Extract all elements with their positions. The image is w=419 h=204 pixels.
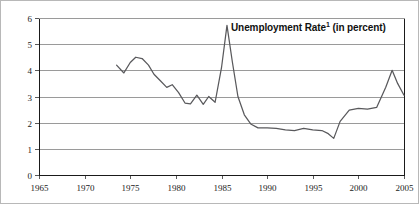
x-axis-tick-label: 1985 [214,183,233,193]
y-tick-marks [35,19,39,176]
x-axis-tick-label: 1980 [168,183,187,193]
x-axis-tick-label: 1975 [122,183,141,193]
y-axis-tick-label: 6 [28,14,33,24]
y-tick-labels: 0123456 [28,14,33,181]
y-axis-tick-label: 1 [28,145,33,155]
y-axis-tick-label: 3 [28,93,33,103]
y-axis-tick-label: 0 [28,171,33,181]
x-axis-tick-label: 2000 [350,183,369,193]
y-axis-tick-label: 2 [28,119,33,129]
title-footnote-marker: 1 [326,21,330,28]
chart-figure: 0123456 19651970197519801985199019952000… [0,0,419,204]
unemployment-rate-series-line [117,25,404,138]
x-axis-tick-label: 1995 [305,183,324,193]
gridlines [39,19,404,150]
y-axis-tick-label: 5 [28,40,33,50]
x-axis-tick-label: 1990 [259,183,278,193]
x-axis-tick-label: 1965 [31,183,50,193]
chart-title: Unemployment Rate1 (in percent) [231,22,386,33]
x-axis-tick-label: 2005 [396,183,415,193]
x-axis-tick-label: 1970 [77,183,96,193]
y-axis-tick-label: 4 [28,66,33,76]
x-tick-labels: 196519701975198019851990199520002005 [31,183,415,193]
